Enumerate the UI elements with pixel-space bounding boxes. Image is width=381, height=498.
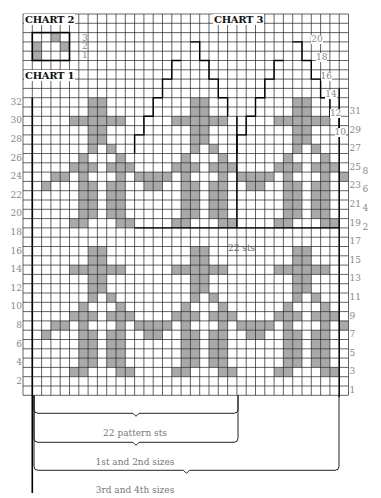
row-label-right: 25: [350, 163, 361, 172]
row-label-left: 18: [8, 228, 22, 237]
row-label-right: 17: [350, 237, 361, 246]
row-label-right: 31: [350, 107, 361, 116]
chart-2-title: CHART 2: [24, 14, 75, 25]
row-label-right: 21: [350, 200, 361, 209]
chart3-row-label: 16: [321, 72, 332, 81]
row-label-right: 13: [350, 274, 361, 283]
row-label-right: 1: [350, 386, 356, 395]
row-label-left: 8: [8, 321, 22, 330]
row-label-left: 26: [8, 154, 22, 163]
row-label-right: 11: [350, 293, 361, 302]
row-label-right: 15: [350, 256, 361, 265]
chart3-row-label: 12: [330, 109, 341, 118]
bracket-label-pattern-sts: 22 pattern sts: [80, 428, 190, 438]
row-label-left: 16: [8, 247, 22, 256]
row-label-left: 4: [8, 358, 22, 367]
chart-3-title: CHART 3: [213, 14, 264, 25]
sts-label: 22 sts: [228, 244, 255, 253]
size-label-right: 6: [363, 185, 369, 194]
size-label-right: 8: [363, 167, 369, 176]
row-label-left: 20: [8, 209, 22, 218]
chart-1-title: CHART 1: [24, 70, 75, 81]
bracket-label-sizes-1-2: 1st and 2nd sizes: [80, 457, 190, 467]
size-label-right: 2: [363, 223, 369, 232]
size-label-right: 4: [363, 204, 369, 213]
row-label-left: 30: [8, 116, 22, 125]
chart3-row-label: 14: [325, 90, 336, 99]
row-label-right: 9: [350, 312, 356, 321]
row-label-left: 24: [8, 172, 22, 181]
row-label-left: 14: [8, 265, 22, 274]
chart3-row-label: 10: [335, 128, 346, 137]
row-label-left: 6: [8, 340, 22, 349]
row-label-right: 7: [350, 330, 356, 339]
bracket-label-sizes-3-4: 3rd and 4th sizes: [80, 485, 190, 495]
row-label-left: 12: [8, 284, 22, 293]
row-label-left: 10: [8, 302, 22, 311]
row-label-left: 28: [8, 135, 22, 144]
chart3-row-label: 20: [311, 35, 322, 44]
row-label-left: 32: [8, 98, 22, 107]
chart3-row-label: 18: [316, 53, 327, 62]
row-label-right: 23: [350, 181, 361, 190]
row-label-right: 27: [350, 144, 361, 153]
row-label-right: 29: [350, 126, 361, 135]
row-label-left: 2: [8, 377, 22, 386]
row-label-right: 19: [350, 219, 361, 228]
row-label-right: 3: [350, 367, 356, 376]
row-label-left: 22: [8, 191, 22, 200]
chart2-row-1: 1: [82, 51, 88, 60]
row-label-right: 5: [350, 349, 356, 358]
